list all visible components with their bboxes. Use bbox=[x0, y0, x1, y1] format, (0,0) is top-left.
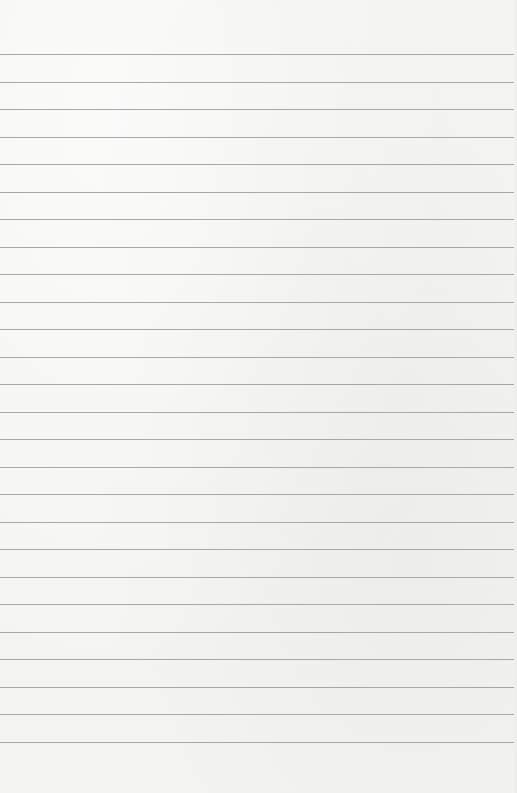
ruled-lines bbox=[0, 0, 514, 793]
ruled-line bbox=[0, 54, 514, 55]
ruled-line bbox=[0, 494, 514, 495]
ruled-line bbox=[0, 604, 514, 605]
ruled-line bbox=[0, 164, 514, 165]
ruled-line bbox=[0, 329, 514, 330]
ruled-line bbox=[0, 137, 514, 138]
ruled-line bbox=[0, 302, 514, 303]
ruled-line bbox=[0, 632, 514, 633]
ruled-line bbox=[0, 522, 514, 523]
ruled-line bbox=[0, 439, 514, 440]
ruled-line bbox=[0, 274, 514, 275]
ruled-line bbox=[0, 82, 514, 83]
ruled-line bbox=[0, 192, 514, 193]
ruled-line bbox=[0, 659, 514, 660]
ruled-line bbox=[0, 247, 514, 248]
ruled-line bbox=[0, 742, 514, 743]
ruled-line bbox=[0, 687, 514, 688]
ruled-line bbox=[0, 109, 514, 110]
lined-paper-sheet bbox=[0, 0, 517, 793]
ruled-line bbox=[0, 412, 514, 413]
ruled-line bbox=[0, 384, 514, 385]
ruled-line bbox=[0, 219, 514, 220]
ruled-line bbox=[0, 467, 514, 468]
ruled-line bbox=[0, 577, 514, 578]
ruled-line bbox=[0, 549, 514, 550]
ruled-line bbox=[0, 357, 514, 358]
ruled-line bbox=[0, 714, 514, 715]
